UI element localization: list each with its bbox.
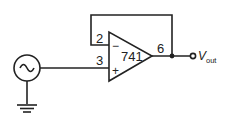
pin-3-label: 3 — [96, 53, 103, 68]
inverting-symbol: − — [112, 39, 119, 53]
vout-subscript: out — [206, 56, 217, 65]
sine-wave-icon — [20, 65, 34, 72]
opamp-model-label: 741 — [121, 49, 143, 64]
noninverting-symbol: + — [112, 64, 119, 78]
pin-2-label: 2 — [96, 31, 103, 46]
vout-label: Vout — [198, 49, 217, 65]
circuit-diagram: 2 3 6 741 − + Vout — [0, 0, 226, 137]
pin-6-label: 6 — [157, 41, 164, 56]
junction-dot — [170, 54, 175, 59]
ground-icon — [17, 105, 37, 112]
output-terminal-icon — [190, 53, 195, 58]
